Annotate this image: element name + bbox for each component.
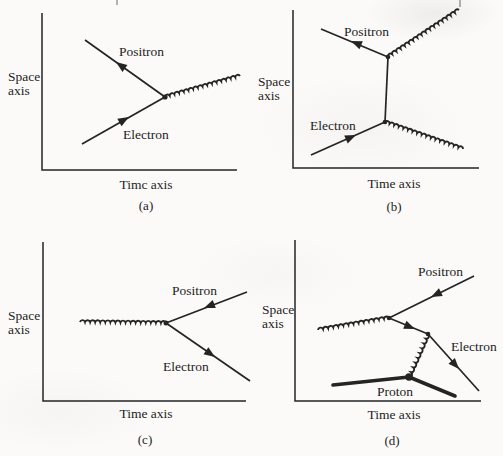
electron-arrowhead [117, 113, 131, 126]
space-axis-label-line2: axis [262, 316, 284, 331]
space-axis-label-line1: Space [262, 302, 294, 317]
electron-label: Electron [451, 339, 497, 354]
positron-label: Positron [418, 264, 463, 279]
photon-wavy-line-upper [388, 9, 459, 57]
space-axis-label-line2: axis [8, 322, 30, 337]
space-axis-label-line2: axis [258, 88, 280, 103]
space-axis-label-line1: Space [8, 69, 40, 84]
proton-label: Proton [377, 384, 413, 399]
positron-label: Positron [119, 44, 164, 59]
space-axis-label-line2: axis [8, 83, 30, 98]
space-axis-label-line1: Space [8, 308, 40, 323]
panel-caption: (c) [138, 432, 152, 447]
photon-wavy-line [165, 75, 240, 97]
panel-c: Positron Electron Space axis Time axis (… [8, 242, 250, 447]
proton-line-out [409, 377, 455, 396]
positron-arrowhead [202, 300, 215, 312]
time-axis-label: Time axis [367, 407, 420, 422]
time-axis-label: Time axis [119, 406, 172, 421]
vertex-dot-lower [383, 120, 388, 125]
photon-wavy-line-lower [385, 121, 463, 149]
time-axis-label: Time axis [367, 176, 420, 191]
electron-label: Electron [163, 359, 209, 374]
feynman-diagrams-figure: Positron Electron Space axis Timc axis (… [0, 0, 503, 456]
proton-vertex-dot [405, 373, 413, 381]
axes-frame [42, 13, 237, 170]
panel-caption: (a) [139, 198, 153, 213]
panel-d: Positron Electron Proton Space axis Time… [262, 240, 497, 448]
photon-wavy-line [80, 320, 166, 323]
electron-label: Electron [123, 127, 169, 142]
panel-b: Positron Electron Space axis Time axis (… [258, 9, 479, 214]
panel-caption: (b) [386, 199, 401, 214]
positron-arrowhead [429, 288, 443, 301]
time-axis-label: Timc axis [119, 177, 172, 192]
electron-label: Electron [310, 118, 356, 133]
photon-wavy-line [318, 316, 389, 330]
positron-label: Positron [172, 283, 217, 298]
vertex-dot [162, 94, 167, 99]
vertex-dot-upper [387, 316, 392, 321]
photon-exchange-wavy-line [409, 334, 429, 377]
panel-a: Positron Electron Space axis Timc axis (… [8, 13, 240, 213]
vertex-dot [164, 321, 169, 326]
vertex-dot-upper [386, 55, 391, 60]
vertex-dot-middle [426, 332, 431, 337]
space-axis-label-line1: Space [258, 74, 290, 89]
positron-arrowhead [114, 58, 128, 71]
positron-line [389, 276, 474, 318]
positron-label: Positron [344, 24, 389, 39]
panel-caption: (d) [384, 433, 399, 448]
electron-mid-arrowhead [403, 321, 416, 333]
internal-propagator-line [385, 57, 388, 122]
figure-canvas: Positron Electron Space axis Timc axis (… [0, 0, 503, 456]
